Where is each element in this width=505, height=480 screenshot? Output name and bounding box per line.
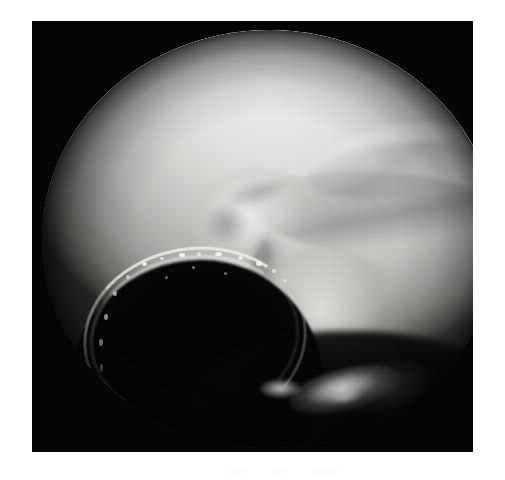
photo-page [0, 0, 505, 480]
rim-speck [256, 261, 262, 266]
rim-speck [238, 256, 243, 260]
rim-speck [165, 276, 168, 279]
photograph-frame [32, 21, 473, 452]
lesion-shadow-b [222, 171, 290, 215]
specular-highlight-b [260, 379, 301, 398]
sulcus-groove [249, 163, 473, 265]
rim-speck [126, 275, 130, 279]
rim-speck [160, 257, 164, 260]
rim-speck [272, 269, 276, 273]
print-artifact [313, 468, 337, 474]
rim-speck [113, 291, 117, 296]
sulcus-groove-secondary [304, 133, 473, 206]
rim-speck [107, 389, 110, 395]
lesion-shadow-a [201, 206, 251, 244]
print-artifact [230, 469, 246, 474]
photo-caption [32, 456, 473, 474]
rim-speck [197, 252, 201, 256]
rim-speck [179, 253, 185, 257]
print-artifact [272, 469, 286, 474]
endoscopic-field-of-view [42, 30, 473, 448]
rim-speck [224, 272, 227, 275]
